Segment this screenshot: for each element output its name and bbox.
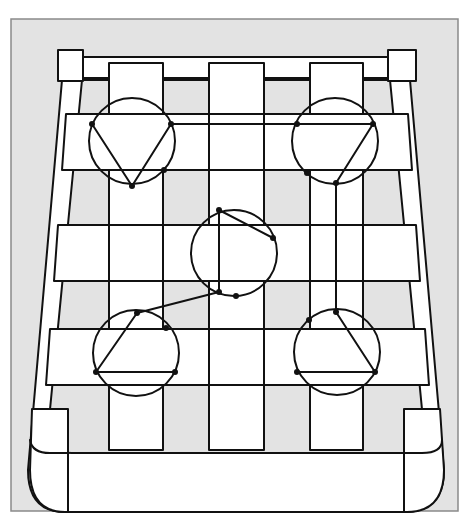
vertical-strap-center-over xyxy=(209,329,264,385)
path-node xyxy=(163,325,169,331)
corner-block-top-right xyxy=(388,50,416,81)
path-node xyxy=(294,121,300,127)
path-node xyxy=(172,369,178,375)
path-node xyxy=(372,369,378,375)
path-node xyxy=(129,183,135,189)
path-node xyxy=(233,293,239,299)
path-node xyxy=(89,121,95,127)
path-node xyxy=(134,310,140,316)
path-node xyxy=(370,121,376,127)
path-node xyxy=(161,167,167,173)
corner-block-bottom-left xyxy=(30,409,68,512)
path-node xyxy=(306,317,312,323)
path-node xyxy=(93,369,99,375)
vertical-strap-center-over xyxy=(209,114,264,170)
path-node xyxy=(333,180,339,186)
path-node xyxy=(270,235,276,241)
corner-block-top-left xyxy=(58,50,83,81)
corner-block-bottom-right xyxy=(404,409,444,512)
path-node xyxy=(168,121,174,127)
path-node xyxy=(333,309,339,315)
path-node xyxy=(304,170,310,176)
path-node xyxy=(294,369,300,375)
woven-seat-diagram xyxy=(0,0,465,531)
vertical-strap-left-over xyxy=(109,225,163,281)
diagram-stage: Woven strap seat with five-circle traver… xyxy=(0,0,465,531)
path-node xyxy=(216,289,222,295)
path-node xyxy=(216,207,222,213)
